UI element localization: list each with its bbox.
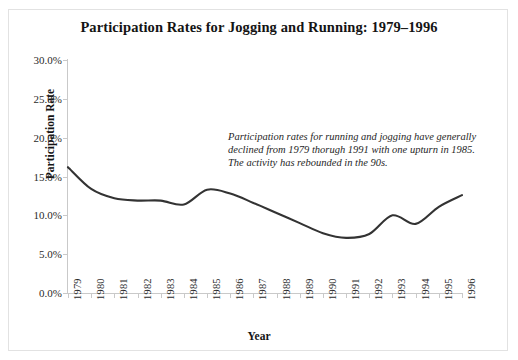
x-tick-mark bbox=[138, 293, 139, 298]
x-tick-mark bbox=[68, 293, 69, 298]
series-layer bbox=[0, 0, 518, 360]
x-tick-mark bbox=[277, 293, 278, 298]
x-tick-mark bbox=[416, 293, 417, 298]
x-tick-label: 1981 bbox=[118, 278, 129, 300]
x-tick-label: 1991 bbox=[350, 278, 361, 300]
x-tick-mark bbox=[253, 293, 254, 298]
x-tick-label: 1990 bbox=[327, 278, 338, 300]
x-tick-mark bbox=[392, 293, 393, 298]
x-tick-mark bbox=[207, 293, 208, 298]
x-tick-label: 1982 bbox=[142, 278, 153, 300]
x-tick-label: 1996 bbox=[466, 278, 477, 300]
x-tick-label: 1987 bbox=[257, 278, 268, 300]
x-tick-label: 1995 bbox=[443, 278, 454, 300]
x-tick-label: 1989 bbox=[304, 278, 315, 300]
x-tick-label: 1988 bbox=[281, 278, 292, 300]
y-tick-label: 0.0% bbox=[39, 287, 62, 299]
x-tick-label: 1985 bbox=[211, 278, 222, 300]
x-tick-label: 1984 bbox=[188, 278, 199, 300]
x-tick-mark bbox=[346, 293, 347, 298]
x-tick-label: 1979 bbox=[72, 278, 83, 300]
x-tick-mark bbox=[323, 293, 324, 298]
y-tick-label: 25.0% bbox=[34, 93, 62, 105]
x-tick-label: 1993 bbox=[396, 278, 407, 300]
chart-annotation-text: Participation rates for running and jogg… bbox=[228, 130, 480, 170]
x-tick-mark bbox=[184, 293, 185, 298]
x-tick-label: 1980 bbox=[95, 278, 106, 300]
y-axis-tick-labels: 0.0%5.0%10.0%15.0%20.0%25.0%30.0% bbox=[0, 0, 62, 360]
x-tick-mark bbox=[230, 293, 231, 298]
x-tick-label: 1986 bbox=[234, 278, 245, 300]
x-tick-mark bbox=[439, 293, 440, 298]
x-tick-mark bbox=[462, 293, 463, 298]
x-tick-mark bbox=[300, 293, 301, 298]
y-tick-label: 15.0% bbox=[34, 171, 62, 183]
participation-rate-line bbox=[68, 167, 462, 238]
x-tick-label: 1983 bbox=[165, 278, 176, 300]
x-tick-label: 1992 bbox=[373, 278, 384, 300]
chart-title: Participation Rates for Jogging and Runn… bbox=[0, 19, 518, 36]
y-tick-label: 10.0% bbox=[34, 209, 62, 221]
y-tick-label: 5.0% bbox=[39, 248, 62, 260]
y-tick-label: 20.0% bbox=[34, 132, 62, 144]
x-tick-mark bbox=[91, 293, 92, 298]
x-axis-title: Year bbox=[0, 330, 518, 342]
y-axis-line bbox=[67, 59, 68, 294]
chart-figure: Participation Rates for Jogging and Runn… bbox=[0, 0, 518, 360]
x-tick-mark bbox=[114, 293, 115, 298]
x-tick-label: 1994 bbox=[420, 278, 431, 300]
y-tick-label: 30.0% bbox=[34, 54, 62, 66]
x-tick-mark bbox=[161, 293, 162, 298]
x-tick-mark bbox=[369, 293, 370, 298]
